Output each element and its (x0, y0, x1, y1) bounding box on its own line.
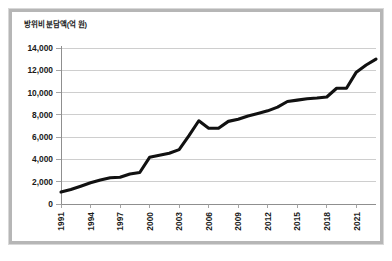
x-tick-label: 2015 (292, 212, 302, 231)
y-tick-label: 2,000 (32, 177, 53, 187)
x-tick-label: 2003 (174, 212, 184, 231)
chart-inner-panel: 방위비 분담액(억 원) 02,0004,0006,0008,00010,000… (12, 12, 380, 241)
x-tick-label: 1997 (115, 212, 125, 231)
y-tick-label: 12,000 (27, 65, 53, 75)
data-series-line (61, 59, 376, 192)
y-tick-label: 8,000 (32, 110, 53, 120)
x-tick-label: 2000 (145, 212, 155, 231)
line-chart-plot: 02,0004,0006,0008,00010,00012,00014,0001… (12, 12, 380, 241)
y-tick-label: 6,000 (32, 132, 53, 142)
y-tick-label: 14,000 (27, 43, 53, 53)
chart-frame: 방위비 분담액(억 원) 02,0004,0006,0008,00010,000… (9, 9, 383, 244)
y-tick-label: 10,000 (27, 88, 53, 98)
y-tick-label: 0 (48, 199, 53, 209)
x-tick-label: 2018 (322, 212, 332, 231)
y-tick-label: 4,000 (32, 154, 53, 164)
x-tick-label: 1994 (86, 212, 96, 231)
x-tick-label: 2012 (263, 212, 273, 231)
x-tick-label: 2009 (233, 212, 243, 231)
x-tick-label: 2021 (352, 212, 362, 231)
x-tick-label: 2006 (204, 212, 214, 231)
x-tick-label: 1991 (56, 212, 66, 231)
